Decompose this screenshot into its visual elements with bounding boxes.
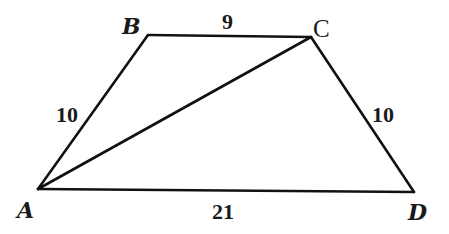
edge-ad [38, 189, 414, 192]
vertex-label-a: A [15, 197, 34, 223]
side-label-cd: 10 [372, 102, 394, 127]
edge-cd [311, 37, 414, 192]
vertex-label-d: D [407, 199, 427, 225]
trapezoid-diagram: B C A D 9 10 10 21 [0, 0, 449, 234]
vertex-label-c: C [313, 15, 330, 42]
edge-ab [38, 35, 148, 189]
side-label-ad: 21 [212, 199, 234, 224]
diagonal-ac [38, 37, 311, 189]
edge-bc [148, 35, 311, 37]
vertex-label-b: B [121, 13, 141, 39]
side-label-ab: 10 [56, 102, 78, 127]
side-label-bc: 9 [222, 9, 233, 34]
